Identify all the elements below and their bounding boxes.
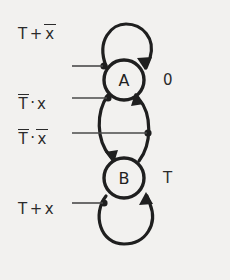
term-t: T <box>18 200 28 218</box>
state-b-output: T <box>163 171 172 186</box>
operator-and: · <box>29 94 37 112</box>
self-loop-b-edge <box>72 192 153 244</box>
transition-label-b-to-a: T·x <box>18 132 47 147</box>
term-x-bar: x <box>45 27 55 42</box>
term-x: x <box>37 95 46 113</box>
state-a[interactable]: A <box>104 60 144 100</box>
state-b[interactable]: B <box>104 158 144 198</box>
state-a-output: 0 <box>163 73 173 88</box>
self-loop-b-arrowhead <box>139 192 153 205</box>
transition-label-self-loop-a: T+x <box>18 27 55 42</box>
transition-label-a-to-b: T·x <box>18 97 46 112</box>
operator-or: + <box>28 25 45 43</box>
operator-and: · <box>29 129 37 147</box>
state-b-label: B <box>119 169 130 188</box>
b-to-a-edge <box>72 93 152 161</box>
transition-label-self-loop-b: T+x <box>18 202 54 217</box>
term-t-bar: T <box>18 132 29 147</box>
operator-or: + <box>28 200 45 218</box>
term-x-bar: x <box>37 132 47 147</box>
state-a-label: A <box>119 71 130 90</box>
term-t-bar: T <box>18 97 29 112</box>
term-x: x <box>45 200 54 218</box>
state-diagram: A B T+x <box>0 0 230 280</box>
a-to-b-edge <box>72 94 118 163</box>
term-t: T <box>18 25 28 43</box>
